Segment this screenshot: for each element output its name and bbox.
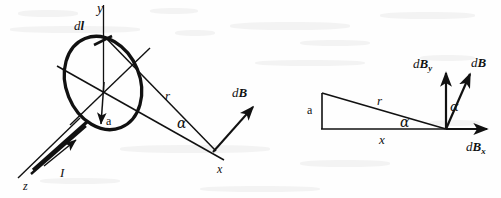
dB-field-arrow [213, 107, 253, 152]
wire-lead-upper [33, 121, 88, 170]
physics-figure: y dl a I z r α x dB a r α x α dBy dB dBx [0, 0, 501, 198]
label-dBy-vector: B [420, 56, 429, 71]
label-right-a: a [307, 104, 312, 116]
label-dBx: dBx [466, 140, 486, 155]
label-alpha-angle-vector-right: α [450, 100, 459, 113]
label-right-r: r [377, 94, 382, 107]
label-y-axis: y [97, 2, 103, 16]
label-dB-right-vector: B [478, 55, 487, 70]
label-dl-current-element: dl [74, 19, 84, 32]
label-alpha-angle-base-right: α [400, 115, 409, 129]
label-z-axis: z [23, 180, 28, 192]
left-panel-graphics [18, 5, 253, 178]
wire-lead-lower [31, 126, 86, 174]
label-r-distance: r [165, 89, 170, 102]
label-dBx-subscript: x [481, 146, 485, 156]
label-x-axis: x [217, 163, 222, 175]
label-dBy: dBy [413, 57, 432, 72]
label-dB-right: dB [471, 56, 486, 69]
label-dB-left-vector: B [239, 85, 248, 100]
label-dBx-vector: B [473, 139, 482, 154]
r-distance-line [105, 37, 216, 151]
label-right-x: x [379, 133, 385, 146]
label-dB-left: dB [232, 86, 247, 99]
label-dl-vector: l [81, 18, 85, 33]
label-dBy-subscript: y [428, 63, 432, 73]
label-radius-a: a [106, 115, 111, 127]
triangle-hypotenuse-r [322, 93, 446, 129]
z-axis-line [18, 118, 80, 178]
radius-a-arrow [101, 82, 104, 124]
label-current-I: I [60, 166, 64, 179]
label-alpha-angle-left: α [177, 116, 186, 130]
